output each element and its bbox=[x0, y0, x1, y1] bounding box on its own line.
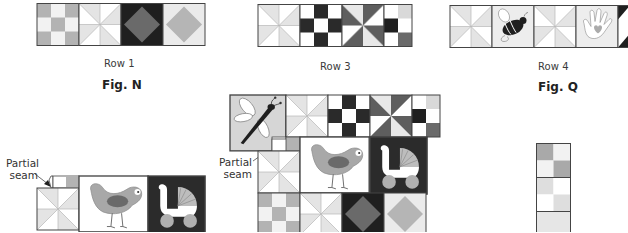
pinwheel-light-block bbox=[258, 151, 300, 193]
partial-seam-flap bbox=[49, 176, 79, 188]
pinwheel-light-block bbox=[286, 95, 328, 137]
center-assembly bbox=[230, 95, 442, 232]
baby-carriage-applique-block bbox=[370, 137, 427, 194]
partial-seam-line2: seam bbox=[6, 169, 38, 181]
fig-q-row4-strip bbox=[450, 5, 628, 48]
partial-seam-line1: Partial bbox=[6, 157, 38, 169]
square-in-square-light-block bbox=[163, 4, 205, 46]
hand-heart-applique-block bbox=[576, 6, 618, 48]
bird-applique-block bbox=[300, 137, 369, 193]
nine-patch-gray-block bbox=[258, 193, 300, 232]
bee-applique-block bbox=[492, 6, 534, 48]
row1-label: Row 1 bbox=[104, 58, 135, 69]
nine-patch-black-block bbox=[328, 95, 370, 137]
square-in-square-light-block bbox=[384, 193, 426, 232]
partial-triangle-block bbox=[618, 6, 628, 48]
fig-n-row1-strip bbox=[37, 3, 205, 46]
pinwheel-dark-block bbox=[342, 5, 384, 47]
bird-applique-block bbox=[79, 176, 148, 232]
pinwheel-light-block bbox=[300, 193, 342, 232]
four-patch-gray-block bbox=[537, 144, 571, 178]
baby-carriage-applique-block bbox=[148, 176, 205, 232]
square-in-square-dark-block bbox=[121, 4, 163, 46]
pinwheel-light-block bbox=[534, 6, 576, 48]
row4-label: Row 4 bbox=[538, 61, 569, 72]
pinwheel-light-block bbox=[79, 4, 121, 46]
plain-light-block bbox=[537, 212, 571, 233]
row3-strip bbox=[258, 4, 414, 47]
fig-n-caption: Fig. N bbox=[102, 78, 142, 92]
square-in-square-dark-block bbox=[342, 193, 384, 232]
pinwheel-light-block bbox=[37, 188, 79, 230]
row3-label: Row 3 bbox=[320, 61, 351, 72]
left-assembly bbox=[37, 176, 207, 232]
four-patch-mixed-block bbox=[384, 5, 412, 47]
partial-seam-flap bbox=[272, 137, 300, 151]
fig-q-caption: Fig. Q bbox=[538, 80, 578, 94]
pinwheel-light-block bbox=[450, 6, 492, 48]
four-patch-mixed-block bbox=[412, 95, 440, 137]
four-patch-light-block bbox=[537, 178, 571, 212]
pinwheel-dark-block bbox=[370, 95, 412, 137]
nine-patch-black-block bbox=[300, 5, 342, 47]
right-vertical-strip bbox=[536, 143, 574, 232]
nine-patch-gray-block bbox=[37, 4, 79, 46]
pinwheel-light-block bbox=[258, 5, 300, 47]
left-partial-seam-label: Partial seam bbox=[6, 157, 38, 181]
